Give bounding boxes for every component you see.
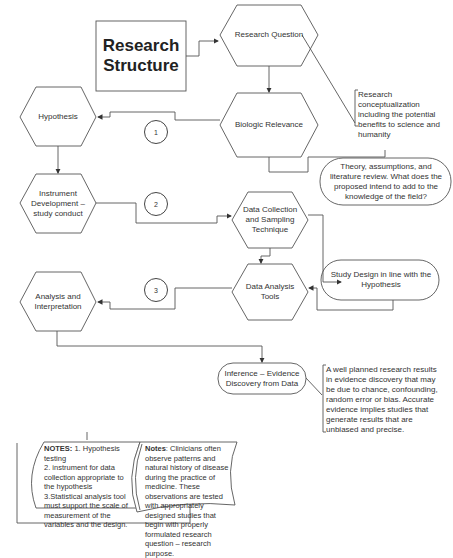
- annotation-conceptualization: Research conceptualization including the…: [358, 90, 453, 140]
- node-data-collection[interactable]: Data Collection and Sampling Technique: [238, 198, 302, 242]
- node-biologic-relevance[interactable]: Biologic Relevance: [232, 110, 306, 140]
- step-3-marker: 3: [144, 278, 168, 302]
- notes-right-heading: Notes: [145, 444, 166, 453]
- node-research-question[interactable]: Research Question: [232, 20, 306, 50]
- node-hypothesis[interactable]: Hypothesis: [28, 102, 88, 132]
- annotation-evidence: A well planned research results in evide…: [326, 365, 444, 435]
- notes-right: Notes: Clinicians often observe patterns…: [145, 444, 235, 558]
- node-data-analysis-tools[interactable]: Data Analysis Tools: [242, 274, 298, 310]
- node-study-design[interactable]: Study Design in line with the Hypothesis: [326, 262, 436, 298]
- notes-left-text-3: 3.Statistical analysis tool must support…: [44, 492, 128, 530]
- node-inference[interactable]: Inference – Evidence Discovery from Data: [222, 365, 302, 393]
- notes-left: NOTES: 1. Hypothesis testing 2. instrume…: [44, 444, 136, 530]
- title-research-structure: Research Structure: [96, 21, 186, 91]
- notes-right-text: : Clinicians often observe patterns and …: [145, 444, 228, 558]
- step-2-marker: 2: [144, 192, 168, 216]
- node-theory[interactable]: Theory, assumptions, and literature revi…: [326, 160, 446, 204]
- notes-left-text-2: 2. instrument for data collection approp…: [44, 463, 124, 491]
- node-instrument-development[interactable]: Instrument Development – study conduct: [30, 183, 86, 225]
- notes-left-heading: NOTES:: [44, 444, 72, 453]
- node-analysis-interpretation[interactable]: Analysis and Interpretation: [28, 287, 88, 317]
- step-1-marker: 1: [144, 120, 168, 144]
